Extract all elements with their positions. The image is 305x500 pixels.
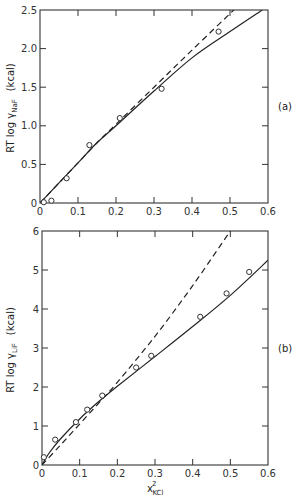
x-tick-label: 0.1 bbox=[72, 468, 88, 479]
y-tick-label: 3 bbox=[33, 343, 39, 354]
y-tick-label: 6 bbox=[33, 226, 39, 237]
data-point-marker bbox=[41, 455, 46, 460]
solid-curve bbox=[40, 10, 262, 203]
data-point-marker bbox=[53, 437, 58, 442]
data-point-marker bbox=[224, 291, 229, 296]
x-tick-label: 0.2 bbox=[109, 468, 125, 479]
panel-b-label: (b) bbox=[278, 343, 292, 354]
data-point-marker bbox=[149, 353, 154, 358]
y-tick-label: 1 bbox=[33, 421, 39, 432]
data-point-marker bbox=[216, 29, 221, 34]
y-tick-label: 2 bbox=[33, 382, 39, 393]
y-tick-label: 2.5 bbox=[21, 5, 37, 16]
data-point-marker bbox=[73, 420, 78, 425]
x-tick-label: 0.5 bbox=[222, 468, 238, 479]
y-tick-label: 0 bbox=[31, 198, 37, 209]
y-axis-label: RT log γLiF(kcal) bbox=[5, 307, 19, 393]
data-point-marker bbox=[134, 365, 139, 370]
y-tick-label: 2.0 bbox=[21, 43, 37, 54]
y-tick-label: 5 bbox=[33, 265, 39, 276]
data-point-marker bbox=[100, 393, 105, 398]
solid-curve bbox=[42, 260, 268, 465]
data-point-marker bbox=[117, 115, 122, 120]
panel-a-label: (a) bbox=[278, 101, 292, 112]
plot-frame bbox=[40, 10, 268, 203]
y-axis-label: RT log γNaF(kcal) bbox=[5, 63, 19, 153]
x-tick-label: 0.5 bbox=[222, 206, 238, 217]
x-tick-label: 0.6 bbox=[260, 206, 276, 217]
y-tick-label: 0 bbox=[33, 460, 39, 471]
x-tick-label: 0.6 bbox=[260, 468, 276, 479]
x-tick-label: 0.1 bbox=[70, 206, 86, 217]
x-tick-label: 0 bbox=[37, 206, 43, 217]
x-tick-label: 0 bbox=[39, 468, 45, 479]
y-tick-label: 0.5 bbox=[21, 159, 37, 170]
x-tick-label: 0.2 bbox=[108, 206, 124, 217]
y-tick-label: 1.0 bbox=[21, 120, 37, 131]
x-tick-label: 0.3 bbox=[146, 206, 162, 217]
chart-figure: 00.10.20.30.40.50.600.51.01.52.02.5RT lo… bbox=[0, 0, 305, 500]
y-tick-label: 4 bbox=[33, 304, 39, 315]
x-tick-label: 0.3 bbox=[147, 468, 163, 479]
data-point-marker bbox=[41, 200, 46, 205]
data-point-marker bbox=[49, 198, 54, 203]
data-point-marker bbox=[85, 407, 90, 412]
y-tick-label: 1.5 bbox=[21, 82, 37, 93]
data-point-marker bbox=[64, 176, 69, 181]
data-point-marker bbox=[159, 86, 164, 91]
x-tick-label: 0.4 bbox=[185, 468, 201, 479]
data-point-marker bbox=[87, 143, 92, 148]
panel-a-plot: 00.10.20.30.40.50.600.51.01.52.02.5RT lo… bbox=[5, 5, 276, 218]
data-point-marker bbox=[198, 314, 203, 319]
panel-b-plot: 00.10.20.30.40.50.60123456RT log γLiF(kc… bbox=[5, 226, 276, 498]
dashed-curve bbox=[42, 231, 230, 465]
plot-frame bbox=[42, 231, 268, 465]
x-tick-label: 0.4 bbox=[184, 206, 200, 217]
data-point-marker bbox=[247, 269, 252, 274]
x-axis-label: x2KCl bbox=[147, 480, 163, 497]
